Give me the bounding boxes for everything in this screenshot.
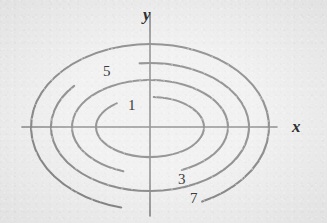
y-axis-label: y <box>143 6 151 23</box>
x-axis-label: x <box>292 118 301 135</box>
contour-label-3: 3 <box>178 172 186 187</box>
contour-label-1: 1 <box>128 98 136 113</box>
contour-label-7: 7 <box>190 191 198 206</box>
plot-canvas <box>0 0 327 223</box>
contour-label-5: 5 <box>103 64 111 79</box>
contour-plot-figure: x y 1357 <box>0 0 327 223</box>
